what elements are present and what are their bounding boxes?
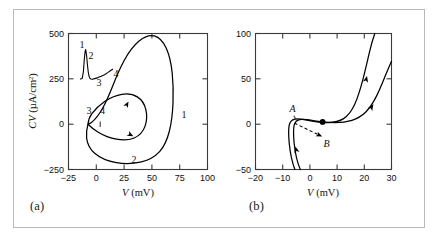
panel-b-xtick-30: 30 (386, 173, 396, 183)
panel-b-x-ticks (256, 34, 392, 170)
panel-a-y-axis-title: CV (µA/cm2) (27, 73, 40, 129)
panel-a-inset-spike-trace: 1 2 3 4 (80, 39, 119, 88)
panel-a-arrowhead-outer (123, 100, 131, 108)
panel-b-x-axis-title: V (mV) (307, 187, 339, 199)
panel-a-ytick-0: 0 (59, 119, 64, 129)
panel-a: 500 250 0 −250 −25 0 25 50 75 100 V (mV)… (0, 0, 219, 242)
panel-a-label-1: 1 (182, 109, 187, 120)
panel-a-ytick-500: 500 (49, 29, 64, 39)
panel-a-xtick-75: 75 (175, 173, 185, 183)
panel-a-label-4: 4 (100, 105, 105, 116)
panel-b-upper-trajectory (289, 34, 375, 170)
panel-b-xtick-0: 0 (307, 173, 312, 183)
panel-b-lower-trajectory (294, 61, 392, 169)
panel-a-xtick-25: 25 (119, 173, 129, 183)
panel-a-x-axis-title: V (mV) (122, 187, 154, 199)
panel-a-xtick-50: 50 (147, 173, 157, 183)
panel-b-xtick-20: 20 (359, 173, 369, 183)
panel-b-perturbation-arrow (295, 123, 324, 139)
panel-a-inset-label-2: 2 (89, 50, 94, 61)
panel-a-inset-label-1: 1 (80, 39, 85, 50)
panel-b-ytick-50: 50 (241, 74, 251, 84)
panel-a-inset-label-3: 3 (97, 77, 102, 88)
panel-b-ytick-100: 100 (236, 29, 251, 39)
panel-b-point-b-dot (320, 119, 326, 125)
panel-a-arrowhead-inner (127, 131, 135, 139)
panel-b-xtick-neg10: −10 (275, 173, 290, 183)
panel-b-axes-box (256, 34, 392, 170)
panel-b-arrowhead-descending (293, 146, 300, 154)
panel-a-caption: (a) (30, 199, 44, 214)
panel-a-xtick-0: 0 (94, 173, 99, 183)
panel-a-xtick-100: 100 (200, 173, 215, 183)
panel-b-ytick-0: 0 (246, 119, 251, 129)
panel-b: 100 50 0 −50 −20 −10 0 10 20 30 V (mV) (219, 0, 438, 242)
panel-a-xtick-neg25: −25 (61, 173, 76, 183)
figure-container: 500 250 0 −250 −25 0 25 50 75 100 V (mV)… (0, 0, 438, 242)
panel-b-y-ticks (256, 34, 392, 170)
panel-b-label-a: A (289, 103, 297, 114)
panel-b-xtick-10: 10 (332, 173, 342, 183)
panel-b-label-b: B (324, 138, 330, 149)
panel-a-label-2: 2 (132, 154, 137, 165)
panel-a-outer-limit-cycle (86, 36, 173, 164)
panel-b-xtick-neg20: −20 (248, 173, 263, 183)
panel-b-caption: (b) (249, 199, 264, 214)
panel-a-label-3: 3 (87, 105, 92, 116)
panel-a-ytick-250: 250 (49, 74, 64, 84)
